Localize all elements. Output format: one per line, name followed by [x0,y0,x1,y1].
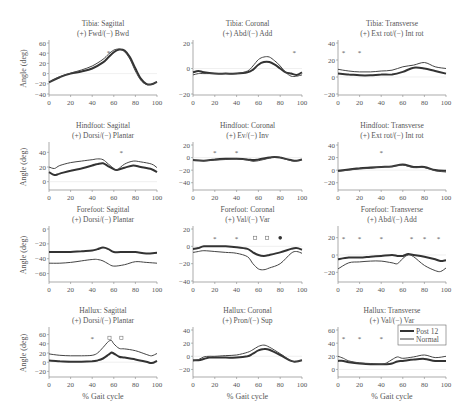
subplot-title: Tibia: Transverse [366,19,419,28]
x-axis-label: % Gait cycle [82,392,124,401]
y-tick-label: 40 [39,50,47,58]
x-tick-label: 80 [132,286,140,294]
x-tick-label: 20 [211,99,219,107]
significance-asterisk: * [213,149,217,157]
series-line-post-12 [193,349,302,362]
y-tick-label: 20 [183,40,191,48]
subplot-subtitle: (+) Fwd/(−) Bwd [77,29,129,38]
subplot-subtitle: (+) Dorsi/(−) Plantar [72,316,135,325]
x-tick-label: 0 [336,381,340,389]
y-tick-label: −20 [35,80,46,88]
significance-asterisk: * [379,235,383,243]
y-tick-label: 20 [328,57,336,65]
x-tick-label: 40 [233,381,241,389]
x-tick-label: 40 [89,99,97,107]
subplot-hindfoot-transverse: Hindfoot: Transverse(+) Ext rot/(−) Int … [324,121,452,202]
x-tick-label: 20 [67,194,75,202]
y-tick-label: 20 [39,350,47,358]
x-tick-label: 40 [378,194,386,202]
y-tick-label: 20 [39,60,47,68]
x-tick-label: 20 [67,99,75,107]
x-tick-label: 100 [441,381,452,389]
y-tick-label: −20 [324,91,335,99]
significance-asterisk: * [120,149,124,157]
x-tick-label: 80 [421,99,429,107]
x-tick-label: 20 [211,286,219,294]
gait-kinematics-figure: Tibia: Sagittal(+) Fwd/(−) Bwd−40−200204… [0,0,474,415]
x-tick-label: 100 [152,194,163,202]
y-tick-label: 40 [328,340,336,348]
y-tick-label: 0 [332,167,336,175]
x-tick-label: 60 [255,194,263,202]
y-tick-label: 20 [183,340,191,348]
x-tick-label: 80 [421,286,429,294]
x-tick-label: 60 [110,286,118,294]
subplot-hallux-coronal: Hallux: Coronal(+) Pron/(−) Sup−20020400… [179,306,308,401]
significance-asterisk: * [342,335,346,343]
series-line-post-12 [49,163,157,175]
series-line-normal [193,251,302,270]
subplot-subtitle: (+) Dorsi/(−) Plantar [72,131,135,140]
x-tick-label: 0 [191,194,195,202]
x-tick-label: 80 [132,381,140,389]
y-axis-label: Angle (deg) [19,235,28,274]
subplot-title: Hindfoot: Transverse [360,121,424,130]
x-tick-label: 100 [152,99,163,107]
y-tick-label: −20 [324,179,335,187]
x-tick-label: 100 [441,99,452,107]
x-tick-label: 60 [399,381,407,389]
x-tick-label: 40 [378,99,386,107]
x-tick-label: 60 [399,286,407,294]
x-tick-label: 80 [277,194,285,202]
series-line-normal [49,340,157,355]
y-tick-label: 0 [332,366,336,374]
x-tick-label: 100 [152,286,163,294]
significance-asterisk: * [379,149,383,157]
subplot-title: Hindfoot: Coronal [220,121,275,130]
significance-asterisk: * [90,335,94,343]
x-tick-label: 20 [356,99,364,107]
x-tick-label: 100 [441,286,452,294]
y-tick-label: −20 [35,240,46,248]
x-tick-label: 100 [441,194,452,202]
subplot-forefoot-sagittal: Forefoot: Sagittal(+) Dorsi/(−) Plantar−… [19,205,163,294]
x-tick-label: 60 [255,286,263,294]
subplot-subtitle: (+) Ext rot/(−) Int rot [360,29,424,38]
subplot-subtitle: (+) Ev/(−) Inv [226,131,269,140]
subplot-title: Tibia: Sagittal [82,19,124,28]
subplot-tibia-sagittal: Tibia: Sagittal(+) Fwd/(−) Bwd−40−200204… [19,19,163,107]
series-line-post-12 [49,248,157,254]
y-tick-label: −40 [35,255,46,263]
y-tick-label: 0 [43,70,47,78]
x-tick-label: 80 [277,99,285,107]
y-tick-label: −40 [179,179,190,187]
y-axis-label: Angle (deg) [19,49,28,88]
subplot-title: Forefoot: Transverse [361,205,424,214]
y-tick-label: 0 [332,252,336,260]
subplot-hindfoot-coronal: Hindfoot: Coronal(+) Ev/(−) Inv−40−20020… [179,121,308,202]
x-tick-label: 100 [152,381,163,389]
series-line-normal [193,57,302,77]
subplot-subtitle: (+) Val/(−) Var [225,215,270,224]
significance-asterisk: * [342,235,346,243]
significance-open-marker [108,336,111,339]
y-tick-label: −40 [35,91,46,99]
subplot-title: Hallux: Sagittal [79,306,126,315]
x-tick-label: 0 [47,286,51,294]
x-tick-label: 60 [399,194,407,202]
y-tick-label: 40 [39,149,47,157]
x-tick-label: 40 [378,286,386,294]
y-tick-label: 60 [39,331,47,339]
x-tick-label: 0 [336,194,340,202]
subplot-hindfoot-sagittal: Hindfoot: Sagittal(+) Dorsi/(−) Plantar0… [19,121,163,202]
subplot-title: Hallux: Coronal [223,306,272,315]
subplot-title: Forefoot: Sagittal [77,205,130,214]
y-tick-label: 0 [187,243,191,251]
y-tick-label: 0 [43,226,47,234]
x-tick-label: 40 [89,194,97,202]
significance-open-marker [254,236,257,239]
series-line-normal [193,345,302,362]
x-tick-label: 60 [110,381,118,389]
x-tick-label: 80 [421,381,429,389]
y-tick-label: 40 [39,340,47,348]
